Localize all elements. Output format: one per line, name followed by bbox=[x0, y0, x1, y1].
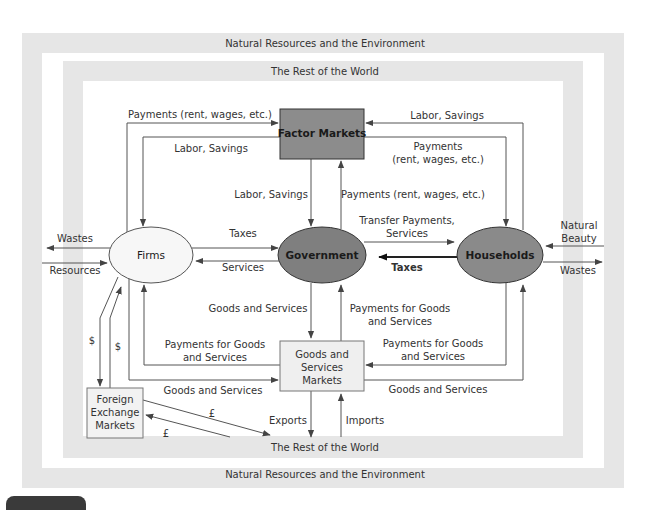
label-firms-wastes: Wastes bbox=[57, 233, 93, 244]
label-factor-firms-labor: Labor, Savings bbox=[174, 143, 248, 154]
label-natural-beauty-1: Natural bbox=[561, 220, 598, 231]
natural-resources-top-label: Natural Resources and the Environment bbox=[225, 38, 425, 49]
label-dollar-1: $ bbox=[89, 335, 95, 346]
figure-caption-tab bbox=[6, 496, 86, 510]
forex-label-line1: Foreign bbox=[96, 394, 133, 405]
label-exports: Exports bbox=[269, 415, 307, 426]
goods-services-markets-node: Goods and Services Markets bbox=[280, 341, 364, 391]
label-imports: Imports bbox=[346, 415, 384, 426]
goods-markets-label-line2: Services bbox=[301, 362, 343, 373]
label-firms-resources: Resources bbox=[49, 265, 100, 276]
households-node: Households bbox=[457, 227, 543, 283]
rest-of-world-top-label: The Rest of the World bbox=[270, 66, 379, 77]
label-factor-government-labor: Labor, Savings bbox=[234, 189, 308, 200]
goods-markets-label-line1: Goods and bbox=[295, 349, 349, 360]
government-label: Government bbox=[285, 249, 358, 261]
label-factor-households-payments-1: Payments bbox=[414, 141, 463, 152]
label-households-factor-labor: Labor, Savings bbox=[410, 110, 484, 121]
firms-label: Firms bbox=[137, 249, 165, 261]
label-households-goods-payments-1: Payments for Goods bbox=[383, 338, 484, 349]
label-pound-2: £ bbox=[163, 428, 169, 439]
goods-markets-label-line3: Markets bbox=[302, 375, 342, 386]
label-goods-firms-payments-2: and Services bbox=[183, 352, 247, 363]
label-government-factor-payments: Payments (rent, wages, etc.) bbox=[341, 189, 485, 200]
rest-of-world-bottom-label: The Rest of the World bbox=[270, 442, 379, 453]
label-households-government-taxes: Taxes bbox=[391, 262, 423, 273]
label-firms-factor-payments: Payments (rent, wages, etc.) bbox=[128, 109, 272, 120]
label-households-goods-payments-2: and Services bbox=[401, 351, 465, 362]
label-dollar-2: $ bbox=[115, 341, 121, 352]
label-pound-1: £ bbox=[209, 408, 215, 419]
label-government-goods-payments-2: and Services bbox=[368, 316, 432, 327]
label-government-households-transfers-2: Services bbox=[386, 228, 428, 239]
natural-resources-bottom-label: Natural Resources and the Environment bbox=[225, 469, 425, 480]
label-households-wastes: Wastes bbox=[560, 265, 596, 276]
firms-node: Firms bbox=[109, 227, 193, 283]
forex-label-line3: Markets bbox=[95, 420, 135, 431]
label-natural-beauty-2: Beauty bbox=[561, 233, 596, 244]
factor-markets-label: Factor Markets bbox=[278, 127, 367, 139]
government-node: Government bbox=[278, 227, 366, 283]
label-government-goods-payments-1: Payments for Goods bbox=[350, 303, 451, 314]
households-label: Households bbox=[466, 249, 535, 261]
label-goods-to-government: Goods and Services bbox=[209, 303, 308, 314]
label-goods-firms-payments-1: Payments for Goods bbox=[165, 339, 266, 350]
factor-markets-node: Factor Markets bbox=[278, 109, 367, 159]
forex-label-line2: Exchange bbox=[91, 407, 140, 418]
label-goods-households: Goods and Services bbox=[389, 384, 488, 395]
label-firms-government-taxes: Taxes bbox=[228, 228, 257, 239]
label-government-firms-services: Services bbox=[222, 262, 264, 273]
label-firms-goods: Goods and Services bbox=[164, 385, 263, 396]
label-government-households-transfers-1: Transfer Payments, bbox=[358, 215, 455, 226]
foreign-exchange-markets-node: Foreign Exchange Markets bbox=[87, 388, 143, 438]
label-factor-households-payments-2: (rent, wages, etc.) bbox=[392, 154, 484, 165]
